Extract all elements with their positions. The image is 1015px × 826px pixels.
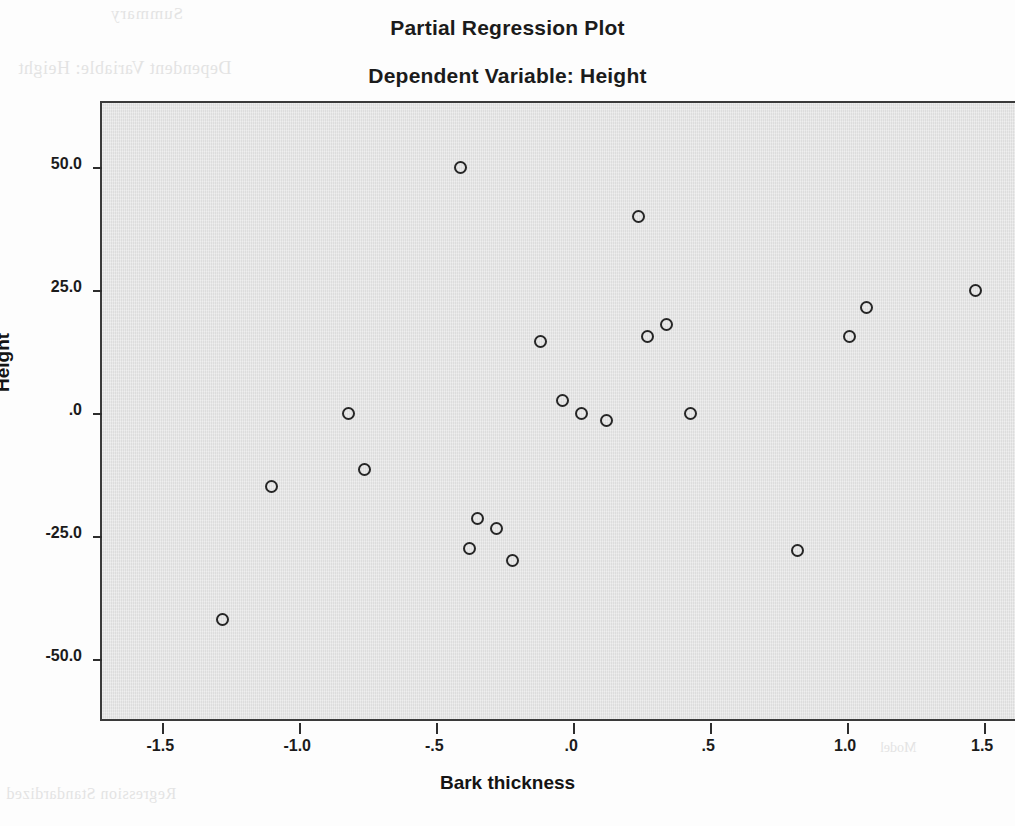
x-axis-tick-label: -1.0: [267, 737, 327, 755]
chart-title-block: Partial Regression Plot Dependent Variab…: [0, 0, 1015, 88]
scatter-point: [860, 301, 873, 314]
scatter-point: [600, 414, 613, 427]
y-axis-tick-label: .0: [12, 401, 82, 419]
x-axis-tick-label: 1.5: [952, 737, 1012, 755]
x-axis-tick: [299, 723, 301, 734]
scatter-point: [660, 318, 673, 331]
y-axis-tick: [93, 167, 102, 169]
y-axis-tick: [93, 536, 102, 538]
scatter-point: [358, 463, 371, 476]
scatter-point: [556, 394, 569, 407]
scatter-point: [534, 335, 547, 348]
scatter-point: [632, 210, 645, 223]
y-axis-tick-label: -25.0: [12, 524, 82, 542]
x-axis-tick: [710, 723, 712, 734]
scatter-point: [454, 161, 467, 174]
x-axis-tick: [436, 723, 438, 734]
y-axis-tick-label: 25.0: [12, 278, 82, 296]
x-axis-tick: [573, 723, 575, 734]
scatter-point: [843, 330, 856, 343]
scatter-point: [791, 544, 804, 557]
chart-subtitle: Dependent Variable: Height: [0, 64, 1015, 88]
scatter-point: [216, 613, 229, 626]
y-axis-tick-label: -50.0: [12, 647, 82, 665]
y-axis-tick-label: 50.0: [12, 155, 82, 173]
y-axis-tick: [93, 290, 102, 292]
x-axis-tick-label: -.5: [404, 737, 464, 755]
y-axis-tick: [93, 659, 102, 661]
y-axis-title: Height: [0, 333, 14, 392]
chart-title: Partial Regression Plot: [0, 16, 1015, 40]
x-axis-tick-label: -1.5: [130, 737, 190, 755]
x-axis-tick-label: 1.0: [815, 737, 875, 755]
x-axis-title: Bark thickness: [0, 772, 1015, 794]
page-bleed-text-d: Model: [880, 740, 917, 756]
y-axis-tick: [93, 413, 102, 415]
scatter-point: [471, 512, 484, 525]
scatter-point: [641, 330, 654, 343]
scatter-point: [506, 554, 519, 567]
x-axis-tick: [984, 723, 986, 734]
scatter-point: [342, 407, 355, 420]
scatter-point: [969, 284, 982, 297]
x-axis-tick-label: .5: [678, 737, 738, 755]
x-axis-tick: [162, 723, 164, 734]
plot-area: [100, 101, 1015, 721]
paper-texture: [102, 103, 1015, 719]
x-axis-tick: [847, 723, 849, 734]
scatter-point: [575, 407, 588, 420]
scatter-point: [463, 542, 476, 555]
scatter-point: [684, 407, 697, 420]
x-axis-tick-label: .0: [541, 737, 601, 755]
scatter-point: [490, 522, 503, 535]
scatter-point: [265, 480, 278, 493]
